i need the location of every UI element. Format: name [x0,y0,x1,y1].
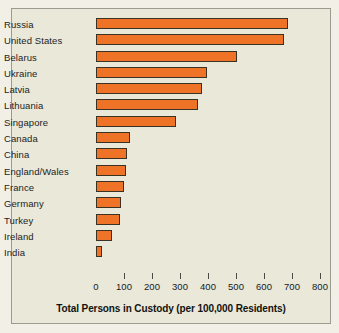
bar [96,34,284,45]
bar-category-label-text: Canada [4,133,38,145]
bar-track [96,148,320,160]
chart-plot-area: RussiaUnited StatesBelarusUkraineLatviaL… [12,9,330,323]
bar-track [96,132,320,144]
chart-figure-frame: RussiaUnited StatesBelarusUkraineLatviaL… [11,8,331,324]
x-axis-tick [320,273,321,279]
x-axis-tick-label: 700 [284,281,300,292]
scan-background: RussiaUnited StatesBelarusUkraineLatviaL… [0,0,339,333]
bar-track [96,246,320,258]
bar-rows: RussiaUnited StatesBelarusUkraineLatviaL… [12,18,330,262]
bar-track [96,18,320,30]
bar-category-label-text: England/Wales [4,166,69,178]
bar-row: Lithuania [12,99,330,115]
x-axis-tick [124,273,125,279]
bar [96,148,127,159]
bar-row: France [12,181,330,197]
bar-category-label-text: France [4,182,34,194]
bar-category-label-text: Ireland [4,231,34,243]
bar-category-label-text: Belarus [4,52,37,64]
bar-row: England/Wales [12,165,330,181]
x-axis-tick [152,273,153,279]
bar-category-label-text: India [4,247,25,259]
bar [96,181,124,192]
x-axis-tick-label: 0 [93,281,98,292]
bar-row: Canada [12,132,330,148]
x-axis-title: Total Persons in Custody (per 100,000 Re… [12,303,330,314]
bar-category-label-text: Ukraine [4,68,37,80]
bar-track [96,165,320,177]
bar-row: United States [12,34,330,50]
bar [96,246,102,257]
bar [96,116,176,127]
bar-track [96,34,320,46]
bar-row: Singapore [12,116,330,132]
bar-track [96,116,320,128]
bar-category-label-text: Turkey [4,215,33,227]
bar [96,197,121,208]
bar-row: China [12,148,330,164]
x-axis-tick [264,273,265,279]
bar [96,230,112,241]
x-axis-tick-label: 400 [200,281,216,292]
x-axis-tick-label: 200 [144,281,160,292]
x-axis: 0100200300400500600700800 [96,273,320,303]
bar-row: Turkey [12,214,330,230]
bar-track [96,51,320,63]
bar [96,165,126,176]
x-axis-tick-label: 300 [172,281,188,292]
x-axis-tick [236,273,237,279]
bar-category-label-text: Germany [4,198,44,210]
bar-track [96,83,320,95]
bar-row: India [12,246,330,262]
x-axis-tick-label: 100 [116,281,132,292]
bar-track [96,99,320,111]
bar-row: Germany [12,197,330,213]
bar-track [96,67,320,79]
bar [96,99,198,110]
x-axis-tick [208,273,209,279]
bar-category-label-text: Lithuania [4,100,43,112]
bar-track [96,230,320,242]
bar-row: Ukraine [12,67,330,83]
bar-track [96,181,320,193]
bar-category-label-text: United States [4,35,62,47]
x-axis-tick-label: 800 [312,281,328,292]
bar-category-label-text: Latvia [4,84,30,96]
x-axis-tick-label: 500 [228,281,244,292]
bar-track [96,197,320,209]
x-axis-tick [180,273,181,279]
bar [96,18,288,29]
bar-category-label-text: Russia [4,19,34,31]
bar-category-label-text: China [4,149,29,161]
bar-row: Latvia [12,83,330,99]
bar-category-label-text: Singapore [4,117,48,129]
bar [96,132,130,143]
bar [96,83,202,94]
bar-row: Belarus [12,51,330,67]
bar-row: Russia [12,18,330,34]
bar [96,51,237,62]
bar-track [96,214,320,226]
bar [96,67,207,78]
x-axis-tick [292,273,293,279]
bar [96,214,120,225]
x-axis-tick-label: 600 [256,281,272,292]
bar-row: Ireland [12,230,330,246]
